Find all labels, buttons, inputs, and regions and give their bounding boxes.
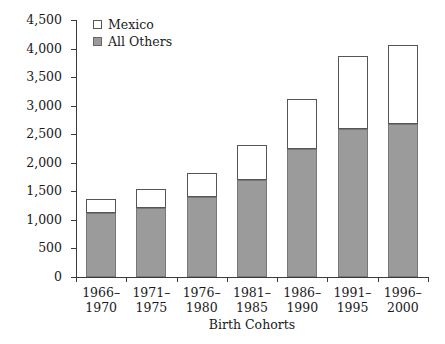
- x-tick: [177, 277, 178, 282]
- x-tick-label-line: 1996–: [367, 285, 439, 300]
- y-tick: 2,500: [71, 134, 76, 135]
- x-tick: [227, 277, 228, 282]
- legend-label: All Others: [108, 34, 172, 49]
- y-tick: 500: [71, 248, 76, 249]
- y-tick: 2,000: [71, 163, 76, 164]
- bar: [86, 199, 116, 277]
- y-tick: 1,500: [71, 191, 76, 192]
- x-axis-line: [76, 277, 428, 278]
- x-tick: [277, 277, 278, 282]
- x-tick-label-line: 2000: [367, 300, 439, 315]
- legend-swatch-white: [93, 20, 102, 29]
- bar-segment-mexico: [86, 199, 116, 213]
- y-tick-label: 1,000: [26, 212, 62, 228]
- bar: [388, 45, 418, 277]
- y-tick-label: 4,500: [26, 12, 62, 28]
- bar-segment-mexico: [237, 145, 267, 180]
- x-tick: [327, 277, 328, 282]
- y-tick: 1,000: [71, 220, 76, 221]
- bar-segment-all-others: [388, 124, 418, 277]
- y-tick-label: 3,500: [26, 69, 62, 85]
- bar-segment-all-others: [136, 208, 166, 277]
- y-tick: 4,500: [71, 20, 76, 21]
- bar-segment-all-others: [187, 197, 217, 277]
- bar: [136, 189, 166, 277]
- y-tick-label: 500: [38, 240, 62, 256]
- x-tick: [428, 277, 429, 282]
- x-tick: [126, 277, 127, 282]
- bar: [287, 99, 317, 277]
- y-tick-label: 0: [54, 269, 62, 285]
- bar-segment-mexico: [388, 45, 418, 124]
- y-tick: 3,500: [71, 77, 76, 78]
- bar-segment-mexico: [338, 56, 368, 129]
- x-axis-title: Birth Cohorts: [76, 317, 428, 332]
- x-tick: [76, 277, 77, 282]
- bar-segment-all-others: [338, 129, 368, 277]
- legend-item: All Others: [93, 34, 172, 49]
- chart-legend: MexicoAll Others: [93, 17, 172, 51]
- y-tick-label: 3,000: [26, 98, 62, 114]
- legend-item: Mexico: [93, 17, 172, 32]
- y-tick: 3,000: [71, 106, 76, 107]
- plot-area: 05001,0001,5002,0002,5003,0003,5004,0004…: [76, 20, 428, 277]
- y-tick-label: 2,000: [26, 155, 62, 171]
- bar-segment-mexico: [287, 99, 317, 149]
- x-tick-label: 1996–2000: [367, 285, 439, 315]
- y-axis-line: [76, 20, 77, 278]
- y-tick-label: 1,500: [26, 183, 62, 199]
- bar-segment-mexico: [136, 189, 166, 208]
- legend-swatch-gray: [93, 37, 102, 46]
- y-tick-label: 2,500: [26, 126, 62, 142]
- y-tick-label: 4,000: [26, 41, 62, 57]
- bar-segment-all-others: [287, 149, 317, 277]
- bar: [237, 145, 267, 277]
- legend-label: Mexico: [108, 17, 154, 32]
- bar: [187, 173, 217, 277]
- x-tick: [378, 277, 379, 282]
- bar-segment-all-others: [86, 213, 116, 277]
- bar-segment-mexico: [187, 173, 217, 197]
- chart-figure: Number in Cohort, Thousands 05001,0001,5…: [0, 0, 445, 344]
- y-tick: 4,000: [71, 49, 76, 50]
- bar: [338, 56, 368, 277]
- bar-segment-all-others: [237, 180, 267, 277]
